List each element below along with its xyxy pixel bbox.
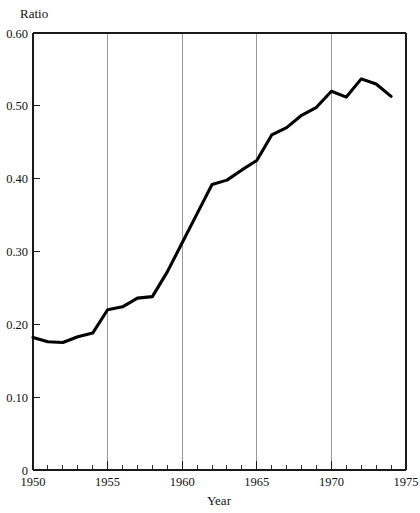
- x-tick-group: 195019551960196519701975: [21, 461, 419, 489]
- y-tick-group: 00.100.200.300.400.500.60: [6, 27, 40, 478]
- y-tick-label-6: 0.60: [6, 27, 28, 41]
- ratio-series-line: [33, 79, 391, 343]
- x-minor-tick-group: [48, 465, 391, 470]
- y-tick-label-1: 0.10: [6, 391, 28, 405]
- x-tick-label-0: 1950: [21, 475, 46, 489]
- vertical-gridlines-group: [108, 33, 332, 470]
- x-tick-label-2: 1960: [170, 475, 195, 489]
- y-tick-label-4: 0.40: [6, 172, 28, 186]
- x-tick-label-5: 1975: [394, 475, 419, 489]
- x-tick-label-4: 1970: [319, 475, 344, 489]
- y-axis-title: Ratio: [20, 6, 48, 21]
- y-tick-label-2: 0.20: [6, 318, 28, 332]
- axis-lines-group: [33, 33, 406, 470]
- data-series-group: [33, 79, 391, 343]
- x-tick-label-1: 1955: [95, 475, 120, 489]
- y-tick-label-3: 0.30: [6, 245, 28, 259]
- chart-container: 00.100.200.300.400.500.60 19501955196019…: [0, 0, 420, 513]
- x-tick-label-3: 1965: [244, 475, 269, 489]
- line-chart: 00.100.200.300.400.500.60 19501955196019…: [0, 0, 420, 513]
- x-axis-title: Year: [207, 493, 232, 508]
- y-tick-label-5: 0.50: [6, 99, 28, 113]
